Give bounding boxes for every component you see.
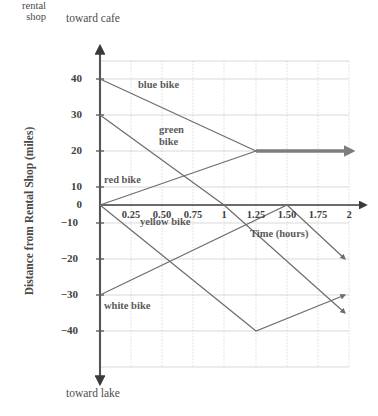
y-tick-label: 0 [48, 198, 82, 210]
y-axis-title: Distance from Rental Shop (miles) [23, 96, 35, 326]
series-yellow-bike [100, 205, 345, 331]
y-tick-label: −10 [44, 216, 78, 228]
y-tick-label: 10 [48, 180, 82, 192]
y-tick-label: 40 [48, 72, 82, 84]
x-tick-label: 2 [338, 209, 360, 220]
series-label-red-bike: red bike [104, 174, 141, 185]
series-label-green-bike: green bike [159, 124, 184, 148]
series-label-white-bike: white bike [104, 300, 150, 311]
y-tick-label: −40 [44, 324, 78, 336]
caption-toward-lake: toward lake [66, 387, 120, 399]
series-label-blue-bike: blue bike [138, 79, 179, 90]
x-tick-label: 1 [212, 209, 236, 220]
y-tick-label: 30 [48, 108, 82, 120]
y-tick-label: −30 [44, 288, 78, 300]
y-tick-label: −20 [44, 252, 78, 264]
series-label-green-bike-line2: bike [159, 136, 178, 147]
series-label-green-bike-line1: green [159, 124, 184, 135]
series-label-yellow-bike: yellow bike [140, 216, 190, 227]
x-axis-title: Time (hours) [250, 228, 308, 239]
caption-toward-cafe: toward cafe [66, 12, 120, 24]
y-tick-label: 20 [48, 144, 82, 156]
x-tick-label: 1.75 [300, 209, 336, 220]
